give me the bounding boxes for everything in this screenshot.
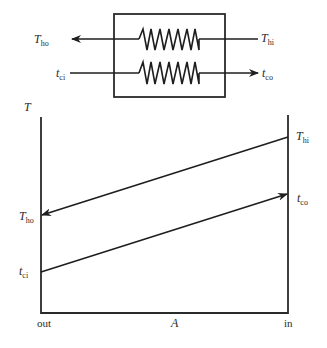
exchanger-schematic: Tho Thi tci tco [34, 14, 275, 97]
x-right-label: in [284, 317, 293, 329]
label-hot-outlet: Tho [34, 32, 49, 48]
hot-coil [139, 29, 199, 50]
label-cold-outlet: tco [262, 66, 273, 82]
cold-temperature-line [41, 194, 287, 272]
label-t-co: tco [297, 191, 308, 207]
label-t-ci: tci [19, 264, 29, 280]
temperature-profile-graph: T out A in Thi tco Tho tci [19, 100, 310, 330]
cold-coil [139, 62, 199, 84]
x-left-label: out [37, 317, 51, 329]
graph-axes [41, 115, 288, 313]
label-T-ho: Tho [19, 209, 34, 225]
x-axis-label: A [170, 316, 179, 330]
counterflow-heat-exchanger-diagram: Tho Thi tci tco T out A in Thi tco Tho t… [0, 0, 327, 348]
hot-temperature-line [42, 137, 288, 215]
cold-stream [70, 62, 258, 84]
label-hot-inlet: Thi [261, 31, 275, 47]
label-cold-inlet: tci [56, 66, 66, 82]
hot-stream [72, 29, 258, 50]
label-T-hi: Thi [296, 129, 310, 145]
exchanger-shell [114, 14, 225, 97]
y-axis-label: T [24, 100, 32, 114]
